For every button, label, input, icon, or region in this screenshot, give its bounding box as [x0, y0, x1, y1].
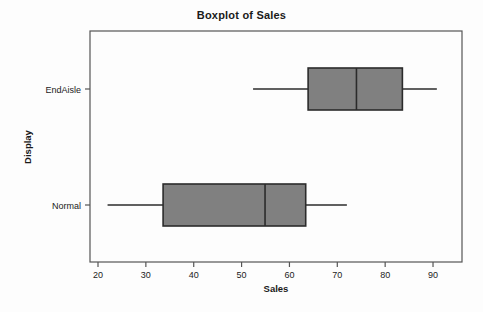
- plot-frame: [90, 31, 462, 262]
- x-axis-title: Sales: [264, 283, 289, 294]
- boxplot-box: [108, 184, 347, 226]
- x-axis-tick-label: 30: [141, 270, 151, 280]
- x-axis-tick-label: 20: [93, 270, 103, 280]
- x-axis-tick-label: 60: [284, 270, 294, 280]
- plot-area: Display Sales 2030405060708090 EndAisleN…: [0, 0, 483, 312]
- x-axis-tick-label: 50: [237, 270, 247, 280]
- boxplot-chart: Boxplot of Sales Display Sales 203040506…: [0, 0, 483, 312]
- x-axis-tick-label: 90: [428, 270, 438, 280]
- y-axis-categories: EndAisleNormal: [45, 85, 90, 211]
- y-axis-category-label: EndAisle: [45, 85, 81, 95]
- x-axis-tick-label: 40: [189, 270, 199, 280]
- box-series: [108, 68, 437, 226]
- boxplot-box: [253, 68, 437, 110]
- x-axis-tick-label: 80: [380, 270, 390, 280]
- x-axis-ticks: 2030405060708090: [93, 262, 438, 280]
- box-iqr: [308, 68, 402, 110]
- box-iqr: [163, 184, 306, 226]
- y-axis-category-label: Normal: [52, 201, 81, 211]
- x-axis-tick-label: 70: [332, 270, 342, 280]
- y-axis-title: Display: [22, 129, 33, 164]
